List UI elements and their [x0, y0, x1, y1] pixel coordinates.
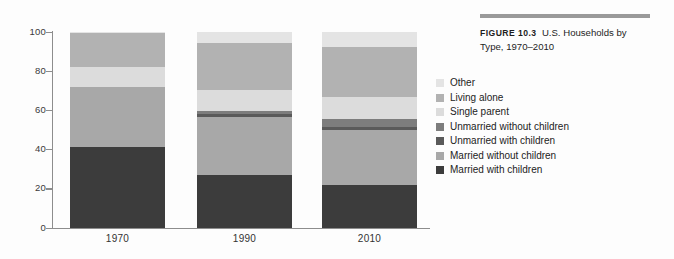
- y-axis-tick-labels: 100806040200: [14, 0, 46, 259]
- y-axis-tick-mark: [46, 228, 53, 229]
- legend-item[interactable]: Unmarried without children: [436, 120, 656, 135]
- bar-segment[interactable]: [322, 130, 417, 186]
- figure-side-panel: FIGURE 10.3 U.S. Households by Type, 197…: [478, 0, 674, 259]
- y-axis-tick-label: 0: [16, 223, 46, 233]
- legend-item-label: Living alone: [450, 93, 503, 103]
- legend-item[interactable]: Married with children: [436, 163, 656, 178]
- bar-segment[interactable]: [197, 90, 292, 111]
- bar-segment[interactable]: [197, 43, 292, 90]
- y-axis-tick-label: 100: [16, 27, 46, 37]
- legend-item[interactable]: Living alone: [436, 91, 656, 106]
- x-axis-line: [52, 228, 430, 229]
- bar-segment[interactable]: [70, 33, 165, 66]
- legend-item-label: Single parent: [450, 107, 509, 117]
- bar-segment[interactable]: [322, 32, 417, 48]
- legend-swatch-icon: [436, 123, 444, 131]
- stacked-bar[interactable]: [322, 32, 417, 228]
- figure-caption: FIGURE 10.3 U.S. Households by Type, 197…: [480, 26, 652, 54]
- bar-segment[interactable]: [197, 111, 292, 114]
- bar-segment[interactable]: [70, 67, 165, 88]
- legend-item[interactable]: Single parent: [436, 105, 656, 120]
- y-axis-tick-label: 60: [16, 105, 46, 115]
- x-axis-tick-label: 2010: [322, 233, 417, 244]
- y-axis-tick-label: 20: [16, 183, 46, 193]
- bar-segment[interactable]: [197, 175, 292, 228]
- legend-swatch-icon: [436, 108, 444, 116]
- bar-segment[interactable]: [197, 114, 292, 117]
- legend-swatch-icon: [436, 79, 444, 87]
- legend-swatch-icon: [436, 137, 444, 145]
- legend-item-label: Married without children: [450, 151, 556, 161]
- y-axis-tick-label: 40: [16, 144, 46, 154]
- y-axis-line: [52, 31, 53, 229]
- stacked-bar[interactable]: [197, 32, 292, 228]
- legend-item-label: Other: [450, 78, 475, 88]
- legend-item-label: Unmarried without children: [450, 122, 569, 132]
- y-axis-tick-label: 80: [16, 66, 46, 76]
- x-axis-tick-label: 1990: [197, 233, 292, 244]
- bar-segment[interactable]: [70, 87, 165, 147]
- legend-item[interactable]: Other: [436, 76, 656, 91]
- y-axis-tick-mark: [46, 71, 53, 72]
- x-axis-tick-label: 1970: [70, 233, 165, 244]
- chart-legend: OtherLiving aloneSingle parentUnmarried …: [436, 76, 656, 178]
- y-axis-tick-mark: [46, 149, 53, 150]
- legend-item-label: Married with children: [450, 165, 542, 175]
- figure-number-label: FIGURE 10.3: [480, 28, 537, 38]
- bar-segment[interactable]: [322, 97, 417, 119]
- legend-swatch-icon: [436, 152, 444, 160]
- legend-swatch-icon: [436, 166, 444, 174]
- figure-rule-divider: [480, 14, 650, 18]
- legend-item-label: Unmarried with children: [450, 136, 555, 146]
- y-axis-tick-mark: [46, 32, 53, 33]
- figure-container: 100806040200 197019902010 FIGURE 10.3 U.…: [0, 0, 674, 259]
- bar-segment[interactable]: [322, 47, 417, 97]
- legend-item[interactable]: Unmarried with children: [436, 134, 656, 149]
- legend-swatch-icon: [436, 94, 444, 102]
- bar-segment[interactable]: [322, 185, 417, 227]
- y-axis-tick-mark: [46, 110, 53, 111]
- bar-segment[interactable]: [70, 32, 165, 34]
- bar-segment[interactable]: [197, 117, 292, 175]
- legend-item[interactable]: Married without children: [436, 149, 656, 164]
- y-axis-tick-mark: [46, 188, 53, 189]
- bar-segment[interactable]: [70, 147, 165, 227]
- bar-segment[interactable]: [322, 127, 417, 130]
- bar-segment[interactable]: [197, 32, 292, 44]
- stacked-bar[interactable]: [70, 32, 165, 228]
- bar-segment[interactable]: [322, 119, 417, 127]
- chart-plot-area: 100806040200 197019902010: [0, 0, 440, 259]
